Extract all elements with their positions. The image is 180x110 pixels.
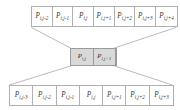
cell-label: Pi,j-2 (38, 92, 51, 100)
cell-top-6: Pi,j+4 (156, 7, 177, 26)
cell-label: Pi,j-1 (61, 92, 74, 100)
cell-bottom-5: Pi,j+2 (126, 86, 149, 105)
cell-top-5: Pi,j+3 (135, 7, 156, 26)
cell-top-4: Pi,j+2 (115, 7, 136, 26)
cell-bottom-2: Pi,j-1 (57, 86, 80, 105)
cell-middle-1: Pi,j+1 (94, 49, 117, 65)
cell-label: Pi,j+3 (154, 92, 169, 100)
cell-bottom-6: Pi,j+3 (150, 86, 173, 105)
top-cell-row: Pi,j-2 Pi,j-1 Pi,j Pi,j+1 Pi,j+2 Pi,j+3 … (31, 6, 178, 27)
bottom-cell-row: Pi,j-3 Pi,j-2 Pi,j-1 Pi,j Pi,j+1 Pi,j+2 … (9, 85, 174, 106)
cell-label: Pi,j-2 (35, 13, 48, 21)
cell-label: Pi,j+1 (97, 13, 112, 21)
cell-top-2: Pi,j (73, 7, 94, 26)
cell-label: Pi,j+2 (117, 13, 132, 21)
cell-label: Pi,j (87, 92, 96, 100)
cell-bottom-4: Pi,j+1 (103, 86, 126, 105)
cell-label: Pi,j (78, 53, 86, 62)
cell-top-1: Pi,j-1 (53, 7, 74, 26)
cell-bottom-1: Pi,j-2 (33, 86, 56, 105)
cell-label: Pi,j (79, 13, 88, 21)
connector-bottom-left (10, 66, 71, 85)
cell-label: Pi,j+1 (107, 92, 122, 100)
cell-label: Pi,j+3 (138, 13, 153, 21)
cell-label: Pi,j+2 (130, 92, 145, 100)
connector-bottom-right (115, 66, 173, 85)
cell-middle-0: Pi,j (71, 49, 94, 65)
cell-label: Pi,j+4 (159, 13, 174, 21)
cell-top-0: Pi,j-2 (32, 7, 53, 26)
cell-label: Pi,j+1 (97, 53, 111, 62)
connector-top-right (115, 28, 177, 49)
cell-label: Pi,j-3 (15, 92, 28, 100)
cell-bottom-0: Pi,j-3 (10, 86, 33, 105)
diagram-canvas: Pi,j-2 Pi,j-1 Pi,j Pi,j+1 Pi,j+2 Pi,j+3 … (0, 0, 180, 110)
cell-bottom-3: Pi,j (80, 86, 103, 105)
connector-top-left (32, 28, 71, 49)
middle-highlighted-row: Pi,j Pi,j+1 (70, 48, 117, 66)
cell-label: Pi,j-1 (56, 13, 69, 21)
cell-top-3: Pi,j+1 (94, 7, 115, 26)
